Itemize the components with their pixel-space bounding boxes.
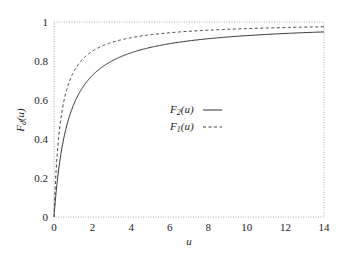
y-axis-ticks: 00.20.40.60.81 <box>34 16 48 223</box>
x-tick-label: 10 <box>241 221 253 233</box>
y-tick-label: 0.6 <box>34 94 48 106</box>
x-tick-label: 0 <box>51 221 57 233</box>
x-tick-label: 4 <box>128 221 134 233</box>
y-tick-label: 0.8 <box>34 55 48 67</box>
legend: F2(u) F1(u) <box>169 103 222 134</box>
y-tick-label: 0 <box>43 211 49 223</box>
x-axis-ticks: 02468101214 <box>51 221 330 233</box>
x-tick-label: 6 <box>167 221 173 233</box>
svg-text:Fd(u): Fd(u) <box>14 108 28 133</box>
y-tick-label: 0.4 <box>34 133 48 145</box>
chart: 00.20.40.60.81 02468101214 u Fd(u) F2(u)… <box>0 0 341 255</box>
y-tick-label: 1 <box>43 16 49 28</box>
x-tick-label: 12 <box>280 221 291 233</box>
x-tick-label: 14 <box>319 221 331 233</box>
x-tick-label: 2 <box>90 221 96 233</box>
x-tick-label: 8 <box>206 221 212 233</box>
y-axis-label: Fd(u) <box>14 108 28 133</box>
legend-f2-label: F2(u) <box>169 103 194 117</box>
legend-f1-label: F1(u) <box>169 120 194 134</box>
x-axis-label: u <box>186 235 192 247</box>
y-tick-label: 0.2 <box>34 172 48 184</box>
